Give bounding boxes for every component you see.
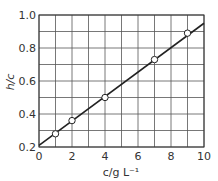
y-tick-label: 0.6	[19, 75, 37, 88]
y-axis-label: h/c	[4, 74, 17, 91]
x-axis-label: c/g L⁻¹	[103, 166, 140, 179]
data-point	[184, 30, 190, 36]
x-tick-label: 8	[168, 150, 175, 163]
y-tick-label: 0.2	[19, 141, 37, 154]
data-point	[102, 94, 108, 100]
x-tick-label: 2	[69, 150, 76, 163]
data-point	[69, 117, 75, 123]
x-tick-label: 4	[102, 150, 109, 163]
y-tick-label: 0.4	[19, 108, 37, 121]
y-tick-label: 0.8	[19, 42, 37, 55]
chart: 0246810 0.20.40.60.81.0 c/g L⁻¹ h/c	[0, 0, 218, 181]
x-tick-label: 6	[135, 150, 142, 163]
y-tick-label: 1.0	[19, 9, 37, 22]
data-point	[52, 131, 58, 137]
x-tick-label: 10	[197, 150, 211, 163]
x-tick-labels: 0246810	[36, 150, 212, 163]
data-point	[151, 56, 157, 62]
y-tick-labels: 0.20.40.60.81.0	[19, 9, 37, 154]
x-tick-label: 0	[36, 150, 43, 163]
